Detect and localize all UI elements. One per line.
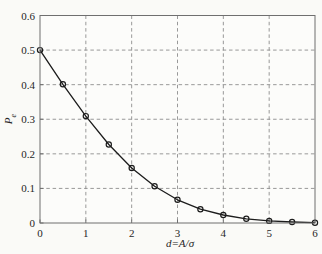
y-axis-label: Pe — [2, 114, 17, 124]
x-tick-label: 0 — [37, 227, 43, 239]
x-tick-label: 6 — [312, 227, 318, 239]
y-tick-label: 0.1 — [21, 182, 35, 194]
x-tick-label: 5 — [266, 227, 272, 239]
y-tick-label: 0.3 — [21, 113, 35, 125]
x-axis-label: d=A/σ — [166, 237, 194, 249]
y-tick-label: 0 — [30, 217, 36, 229]
figure: 012345600.10.20.30.40.50.6 d=A/σ Pe — [0, 0, 322, 254]
x-tick-label: 2 — [129, 227, 135, 239]
y-tick-label: 0.4 — [21, 79, 35, 91]
y-tick-label: 0.2 — [21, 148, 35, 160]
y-tick-label: 0.5 — [21, 44, 35, 56]
plot-area — [0, 0, 322, 254]
y-axis-label-main: P — [2, 117, 14, 124]
y-tick-label: 0.6 — [21, 10, 35, 22]
y-axis-label-sub: e — [9, 114, 18, 118]
x-tick-label: 1 — [83, 227, 89, 239]
x-tick-label: 4 — [221, 227, 227, 239]
